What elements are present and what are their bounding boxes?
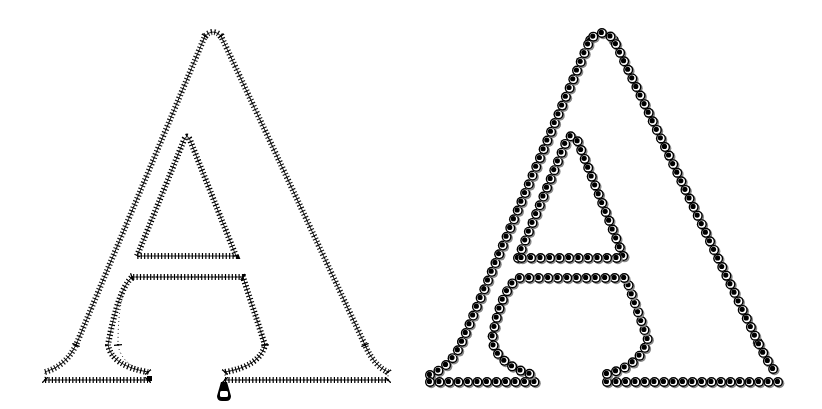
bead-letter-a xyxy=(425,28,784,388)
zipper-stop-icon xyxy=(147,376,152,381)
zipper-inner-triangle xyxy=(137,137,236,257)
figure-stage: Two outlined capital letter A shapes xyxy=(0,0,822,409)
zipper-letter-a xyxy=(45,32,388,401)
zipper-pull-icon xyxy=(217,382,231,401)
bead-chain xyxy=(425,28,784,388)
